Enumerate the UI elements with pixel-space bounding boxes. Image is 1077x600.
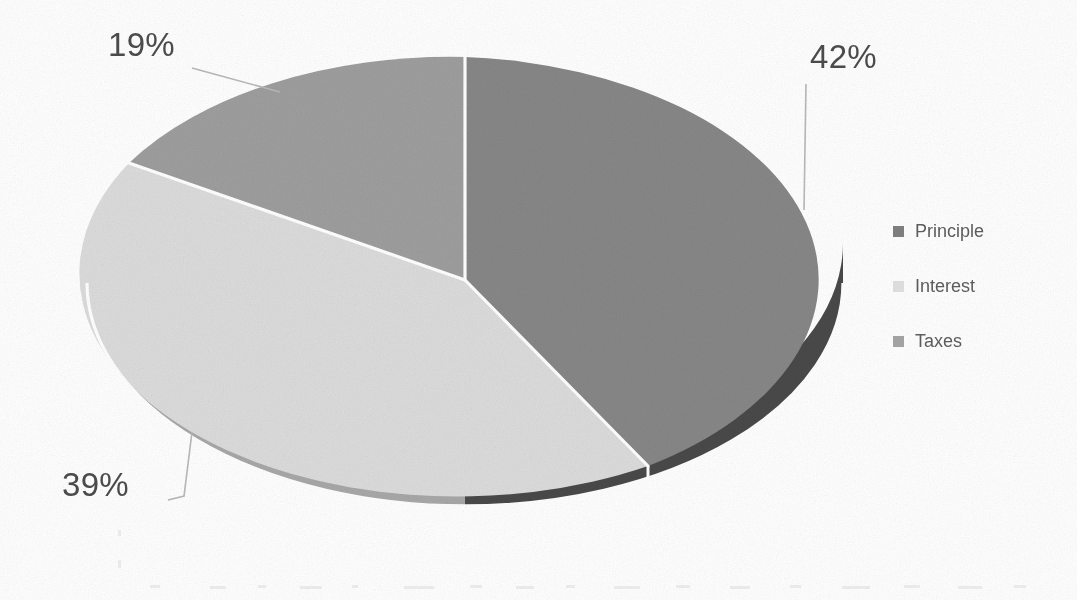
scan-artifacts bbox=[118, 530, 1026, 589]
legend-label-taxes: Taxes bbox=[915, 332, 962, 350]
legend-label-interest: Interest bbox=[915, 277, 975, 295]
legend-label-principle: Principle bbox=[915, 222, 984, 240]
legend-item-principle[interactable]: Principle bbox=[893, 222, 984, 240]
data-label-taxes: 19% bbox=[108, 28, 175, 61]
chart-legend: Principle Interest Taxes bbox=[893, 222, 984, 350]
data-label-interest: 39% bbox=[62, 468, 129, 501]
legend-item-interest[interactable]: Interest bbox=[893, 277, 984, 295]
leader-line-interest bbox=[168, 432, 192, 500]
data-label-principle: 42% bbox=[810, 40, 877, 73]
square-swatch-icon bbox=[893, 226, 904, 237]
square-swatch-icon bbox=[893, 336, 904, 347]
leader-line-principle bbox=[804, 84, 806, 210]
square-swatch-icon bbox=[893, 281, 904, 292]
legend-item-taxes[interactable]: Taxes bbox=[893, 332, 984, 350]
leader-line-taxes bbox=[192, 68, 280, 92]
pie-top-faces bbox=[79, 57, 818, 497]
chart-canvas: 42% 19% 39% Principle Interest Taxes bbox=[0, 0, 1077, 600]
